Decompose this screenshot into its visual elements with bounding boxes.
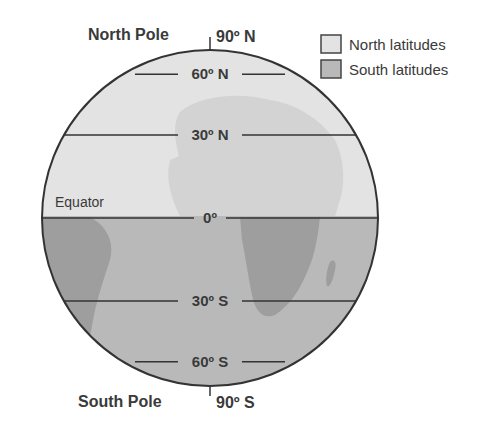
legend-label-north: North latitudes xyxy=(349,36,446,53)
legend: North latitudes South latitudes xyxy=(321,35,448,78)
legend-swatch-south xyxy=(321,60,341,78)
legend-swatch-north xyxy=(321,35,341,53)
latitude-label-30s: 30º S xyxy=(192,292,228,309)
north-pole-label: North Pole xyxy=(88,26,169,43)
latitude-label-30n: 30º N xyxy=(191,126,228,143)
latitude-label-90n: 90º N xyxy=(216,28,256,45)
latitude-label-90s: 90º S xyxy=(216,394,255,411)
latitude-label-60n: 60º N xyxy=(191,65,228,82)
equator-label: Equator xyxy=(55,194,104,210)
latitude-label-60s: 60º S xyxy=(192,353,228,370)
globe-diagram: 90º N60º N30º N0º30º S60º S90º S North P… xyxy=(0,0,495,428)
legend-label-south: South latitudes xyxy=(349,61,448,78)
south-pole-label: South Pole xyxy=(78,393,162,410)
latitude-label-0: 0º xyxy=(203,209,217,226)
